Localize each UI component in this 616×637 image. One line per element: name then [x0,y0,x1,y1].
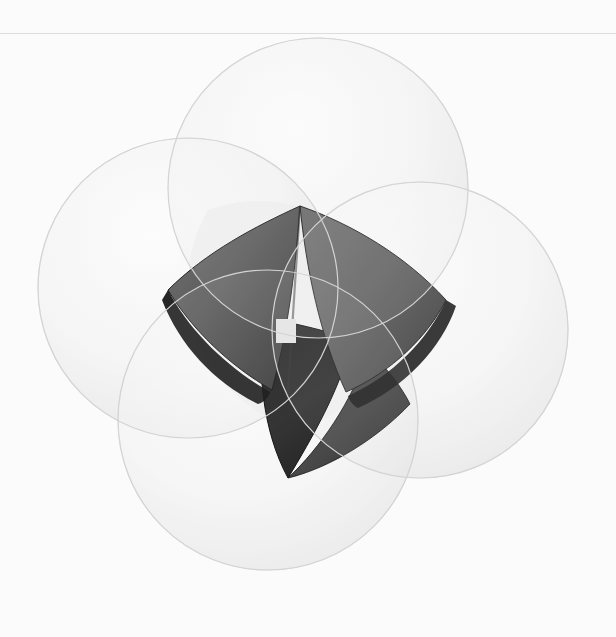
sphere-intersection-figure [0,0,616,637]
figure-canvas: Geometric render: four translucent spher… [0,0,616,637]
top-divider-rule [0,33,616,34]
sphere-bottom-front-veil [118,270,418,570]
